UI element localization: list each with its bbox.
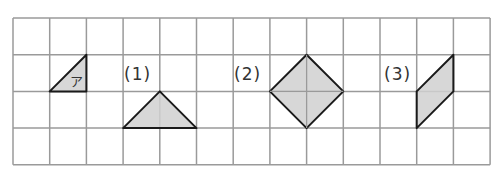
label-2: (2): [234, 64, 261, 84]
label-a: ア: [70, 71, 83, 90]
grid-diagram: [0, 0, 500, 183]
label-3: (3): [384, 64, 411, 84]
shape-3: [417, 55, 454, 128]
shape-1: [123, 91, 196, 128]
label-1: (1): [124, 64, 151, 84]
